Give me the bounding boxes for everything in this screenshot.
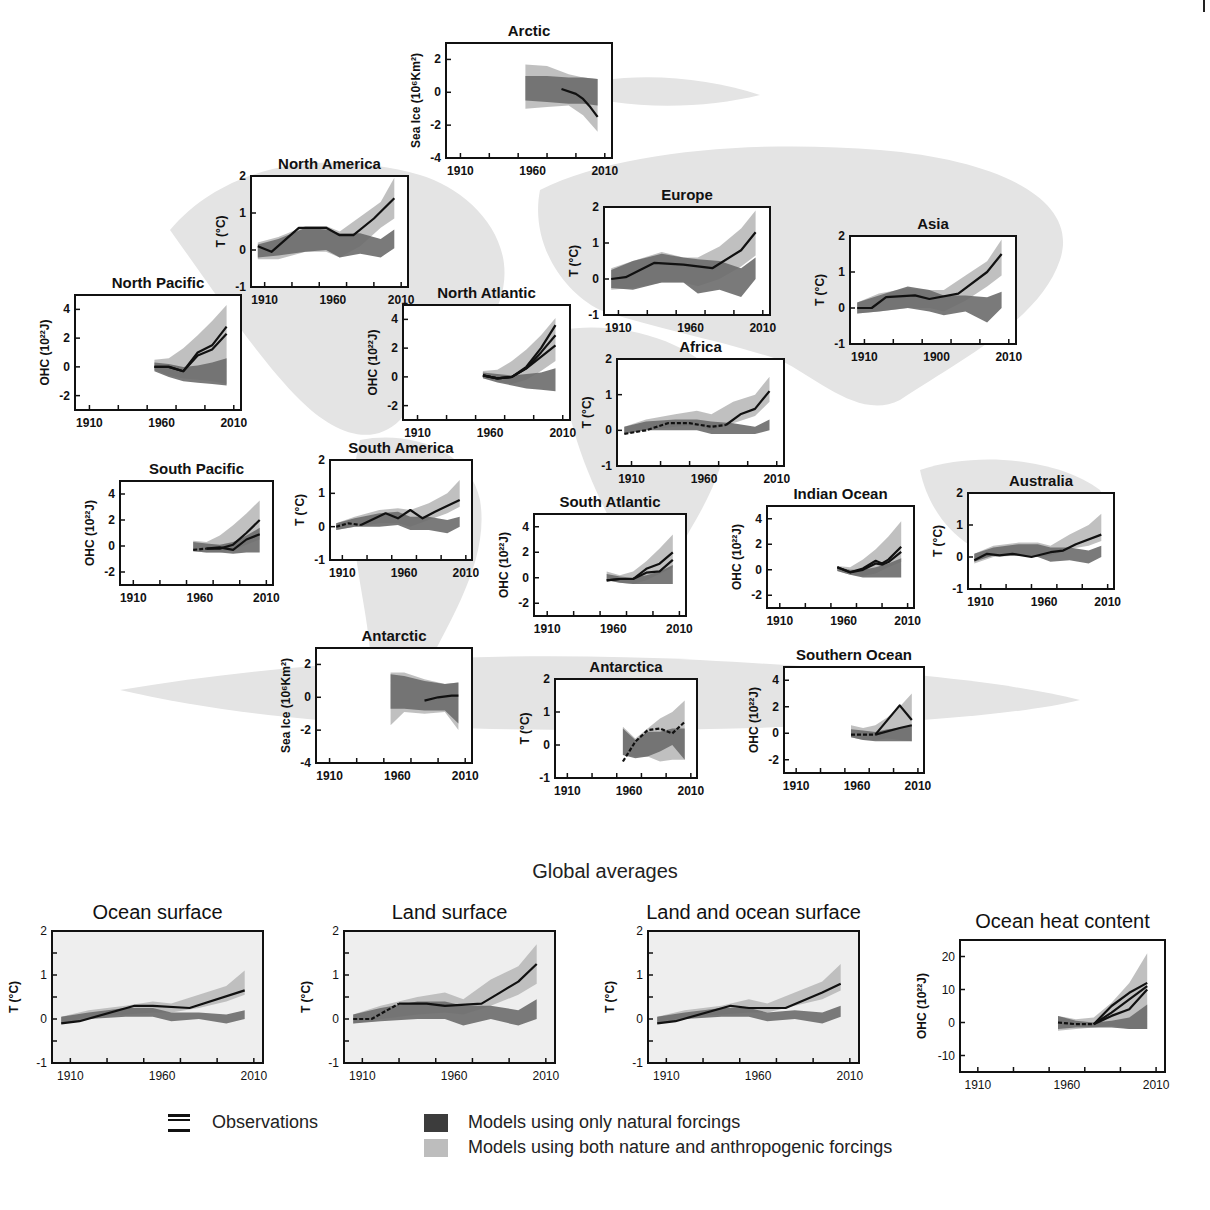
chart-title: North America [278,155,381,172]
x-tick-label: 1960 [391,566,418,580]
y-tick-label: 0 [391,370,398,384]
chart-title: Land surface [392,901,508,923]
chart-title: South Pacific [149,460,244,477]
x-tick-label: 1910 [251,293,278,307]
y-tick-label: -1 [952,582,963,596]
y-axis-label: T (°C) [299,981,313,1013]
y-axis-label: OHC (10²²J) [497,532,511,598]
y-tick-label: 2 [605,352,612,366]
x-tick-label: 1900 [923,350,950,364]
y-tick-label: 0 [956,550,963,564]
y-tick-label: -2 [300,723,311,737]
global-averages-title: Global averages [0,860,1210,883]
legend-observations-label: Observations [212,1112,318,1133]
y-tick-label: 1 [318,486,325,500]
x-tick-label: 2010 [220,416,247,430]
y-tick-label: 0 [40,1012,47,1026]
y-tick-label: 2 [772,700,779,714]
x-tick-label: 1960 [600,622,627,636]
y-tick-label: 2 [636,924,643,938]
y-axis-label: T (°C) [931,525,945,557]
chart-australia: 191019602010-1012T (°C)Australia [908,459,1128,627]
x-tick-label: 1910 [783,779,810,793]
plot-area [648,931,859,1063]
y-tick-label: -2 [430,118,441,132]
x-tick-label: 1910 [554,784,581,798]
x-tick-label: 1960 [1054,1078,1081,1092]
x-tick-label: 1910 [447,164,474,178]
chart-north-pacific: 191019602010-2024OHC (10²²J)North Pacifi… [15,261,255,448]
x-tick-label: 1910 [57,1069,84,1083]
y-tick-label: 0 [592,272,599,286]
y-tick-label: 0 [63,360,70,374]
x-tick-label: 1910 [851,350,878,364]
y-tick-label: 2 [332,924,339,938]
chart-asia: 191019002010-1012T (°C)Asia [790,202,1030,382]
x-tick-label: 1910 [349,1069,376,1083]
x-tick-label: 2010 [240,1069,267,1083]
y-tick-label: 0 [332,1012,339,1026]
natural-swatch-icon [424,1114,448,1132]
x-tick-label: 1910 [653,1069,680,1083]
y-tick-label: -4 [430,151,441,165]
x-tick-label: 2010 [905,779,932,793]
y-tick-label: 2 [592,200,599,214]
chart-title: North Atlantic [437,284,536,301]
chart-south-atlantic: 191019602010-2024OHC (10²²J)South Atlant… [474,480,700,654]
y-tick-label: -4 [300,756,311,770]
chart-title: North Pacific [112,274,205,291]
y-tick-label: 0 [318,520,325,534]
y-tick-label: -1 [632,1056,643,1070]
y-tick-label: 4 [522,520,529,534]
chart-south-pacific: 191019602010-2024OHC (10²²J)South Pacifi… [60,447,287,623]
chart-title: Australia [1009,472,1074,489]
y-tick-label: -1 [601,459,612,473]
y-tick-label: 0 [948,1016,955,1030]
x-tick-label: 1960 [149,1069,176,1083]
chart-antarctica: 191019602010-1012T (°C)Antarctica [495,645,711,816]
y-tick-label: -1 [314,553,325,567]
chart-title: Africa [679,338,722,355]
x-tick-label: 1910 [329,566,356,580]
x-tick-label: 1910 [120,591,147,605]
x-tick-label: 1960 [844,779,871,793]
chart-southern-ocean: 191019602010-2024OHC (10²²J)Southern Oce… [724,633,938,811]
legend-anthropogenic-label: Models using both nature and anthropogen… [468,1137,892,1158]
y-axis-label: OHC (10²²J) [83,500,97,566]
y-tick-label: 0 [304,690,311,704]
chart-antarctic: 191019602010-4-202Sea Ice (10⁶Km²)Antarc… [256,614,486,801]
y-tick-label: -2 [387,399,398,413]
y-axis-label: OHC (10²²J) [915,973,929,1039]
y-tick-label: -2 [59,389,70,403]
y-axis-label: OHC (10²²J) [366,329,380,395]
legend-natural: Models using only natural forcings [424,1112,740,1133]
y-tick-label: 4 [108,487,115,501]
y-tick-label: 2 [543,672,550,686]
legend-natural-label: Models using only natural forcings [468,1112,740,1133]
chart-ocean-heat-content: 191019602010-1001020OHC (10²²J)Ocean hea… [900,906,1179,1110]
y-axis-label: T (°C) [518,712,532,744]
y-tick-label: 20 [942,950,956,964]
x-tick-label: 1910 [967,595,994,609]
y-tick-label: -1 [588,308,599,322]
y-tick-label: -1 [328,1056,339,1070]
x-tick-label: 2010 [836,1069,863,1083]
y-tick-label: -1 [36,1056,47,1070]
natural-band [525,76,597,106]
x-tick-label: 2010 [1143,1078,1170,1092]
chart-indian-ocean: 191019602010-2024OHC (10²²J)Indian Ocean [707,472,928,646]
x-tick-label: 1960 [830,614,857,628]
chart-title: South Atlantic [559,493,660,510]
y-tick-label: 4 [772,673,779,687]
x-tick-label: 1960 [441,1069,468,1083]
chart-title: Land and ocean surface [646,901,861,923]
y-tick-label: 2 [391,341,398,355]
y-tick-label: 0 [434,85,441,99]
y-tick-label: -2 [768,753,779,767]
x-tick-label: 1960 [745,1069,772,1083]
y-tick-label: 1 [605,388,612,402]
chart-ocean-surface: 191019602010-1012T (°C)Ocean surface [0,897,277,1101]
x-tick-label: 2010 [666,622,693,636]
y-axis-label: T (°C) [603,981,617,1013]
y-tick-label: 0 [636,1012,643,1026]
